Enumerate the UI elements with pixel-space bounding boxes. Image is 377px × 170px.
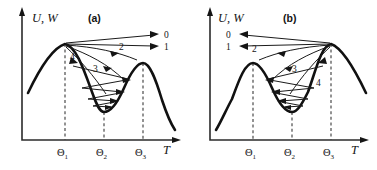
tick-label-theta3: Θ3 xyxy=(135,147,147,161)
panel-label: (a) xyxy=(88,12,101,24)
x-axis-arrowhead xyxy=(360,137,369,143)
panel-b-plot: U, W (b) T Θ1 Θ2 Θ3 0 1 2 3 4 xyxy=(188,0,376,170)
x-axis-label: T xyxy=(163,143,171,157)
panel-a: U, W (a) T Θ1 Θ2 Θ3 0 1 2 3 4 xyxy=(0,0,188,170)
zigzag-4 xyxy=(276,93,308,99)
y-axis-label: U, W xyxy=(218,11,245,25)
ray-0 xyxy=(244,35,330,43)
ray-2-arrowhead xyxy=(277,51,286,57)
tick-label-theta1: Θ1 xyxy=(245,147,257,161)
x-axis-arrowhead xyxy=(172,137,181,143)
curve-label-0: 0 xyxy=(164,30,169,40)
tick-label-theta2: Θ2 xyxy=(284,147,296,161)
zigzag-6 xyxy=(282,102,303,106)
y-axis-arrowhead xyxy=(207,7,213,16)
curve-label-2: 2 xyxy=(119,42,124,52)
curve-label-4: 4 xyxy=(70,52,75,62)
ray-1-arrowhead xyxy=(239,43,248,50)
tick-label-theta1: Θ1 xyxy=(57,147,69,161)
panel-a-plot: U, W (a) T Θ1 Θ2 Θ3 0 1 2 3 4 xyxy=(0,0,188,170)
panel-b: U, W (b) T Θ1 Θ2 Θ3 0 1 2 3 4 xyxy=(188,0,376,170)
tick-label-theta3: Θ3 xyxy=(323,147,335,161)
figure-root: U, W (a) T Θ1 Θ2 Θ3 0 1 2 3 4 xyxy=(0,0,377,170)
ray-2-arrowhead xyxy=(110,51,119,57)
axis-lines xyxy=(210,14,364,140)
curve-label-3: 3 xyxy=(292,64,297,74)
ray-1-arrowhead xyxy=(150,43,159,50)
ray-0-arrowhead xyxy=(239,31,248,38)
y-axis-arrowhead xyxy=(19,7,25,16)
tick-label-theta2: Θ2 xyxy=(96,147,108,161)
potential-curve xyxy=(216,44,366,130)
x-axis-label: T xyxy=(351,143,359,157)
curve-label-1: 1 xyxy=(164,42,169,52)
zigzag-2 xyxy=(270,80,314,88)
zigzag-1 xyxy=(73,66,128,79)
ray-0 xyxy=(66,35,154,43)
panel-label: (b) xyxy=(283,12,296,24)
curve-label-0: 0 xyxy=(226,30,231,40)
ray-0-arrowhead xyxy=(150,31,159,38)
curve-label-4: 4 xyxy=(316,78,321,88)
curve-label-3: 3 xyxy=(93,64,98,74)
y-axis-label: U, W xyxy=(32,11,59,25)
curve-label-2: 2 xyxy=(252,44,257,54)
curve-label-1: 1 xyxy=(226,42,231,52)
